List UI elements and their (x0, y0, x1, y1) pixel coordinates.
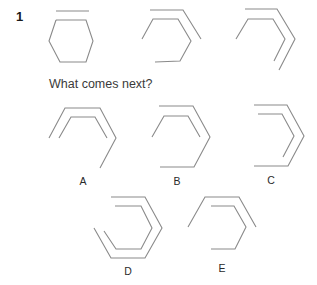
hexagon-shape (236, 19, 285, 61)
figure-line (258, 114, 294, 157)
option-e-label[interactable]: E (218, 262, 225, 274)
figure-line (188, 197, 256, 227)
sequence-figure-1 (49, 11, 93, 62)
option-b-label[interactable]: B (173, 175, 180, 187)
figure-line (104, 206, 152, 249)
option-d-label[interactable]: D (124, 265, 132, 277)
question-prompt: What comes next? (49, 77, 153, 91)
option-d-figure[interactable] (94, 197, 162, 258)
puzzle-canvas (0, 0, 317, 285)
option-b-figure[interactable] (152, 106, 210, 167)
hexagon-shape (49, 20, 93, 62)
figure-line (245, 9, 295, 70)
option-e-figure[interactable] (188, 197, 256, 249)
figure-line (159, 106, 210, 167)
option-a-label[interactable]: A (79, 175, 86, 187)
option-c-label[interactable]: C (267, 174, 275, 186)
option-a-figure[interactable] (49, 108, 116, 168)
sequence-figure-2 (142, 10, 201, 62)
figure-line (150, 10, 201, 39)
figure-line (59, 117, 107, 138)
sequence-figure-3 (236, 9, 295, 70)
option-c-figure[interactable] (254, 105, 304, 166)
figure-line (211, 206, 246, 249)
figure-line (152, 116, 200, 137)
hexagon-shape (142, 19, 191, 62)
